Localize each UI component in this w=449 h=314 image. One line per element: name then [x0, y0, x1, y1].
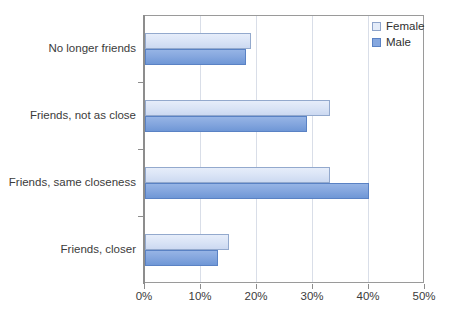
legend: Female Male: [372, 19, 424, 51]
category-label-text: Friends, closer: [61, 243, 136, 255]
x-axis-label-0: 0%: [122, 290, 166, 302]
bar-female-friends-closer[interactable]: [145, 234, 229, 250]
legend-swatch-female-icon: [372, 22, 381, 31]
category-label-text: Friends, not as close: [30, 109, 136, 121]
x-axis-tick: [256, 284, 257, 289]
category-label-friends-same-closeness: Friends, same closeness: [0, 176, 136, 188]
bar-male-no-longer-friends[interactable]: [145, 49, 246, 65]
bar-group-friends-same-closeness: [145, 150, 423, 217]
legend-item-male[interactable]: Male: [372, 35, 424, 49]
x-axis-tick: [424, 284, 425, 289]
x-axis-label-10: 10%: [178, 290, 222, 302]
x-axis-label-30: 30%: [290, 290, 334, 302]
category-label-friends-closer: Friends, closer: [0, 243, 136, 255]
legend-label-male: Male: [386, 35, 411, 49]
bar-male-friends-not-as-close[interactable]: [145, 116, 307, 132]
x-axis-label-50: 50%: [402, 290, 446, 302]
x-axis-tick: [200, 284, 201, 289]
x-axis-tick: [144, 284, 145, 289]
bar-female-no-longer-friends[interactable]: [145, 33, 251, 49]
y-axis-tick: [138, 216, 144, 217]
x-axis-tick: [368, 284, 369, 289]
y-axis-tick: [138, 82, 144, 83]
bar-female-friends-not-as-close[interactable]: [145, 100, 330, 116]
category-label-friends-not-as-close: Friends, not as close: [0, 109, 136, 121]
bar-male-friends-same-closeness[interactable]: [145, 183, 369, 199]
y-axis-tick: [138, 149, 144, 150]
legend-swatch-male-icon: [372, 38, 381, 47]
category-label-text: Friends, same closeness: [9, 176, 136, 188]
legend-label-female: Female: [386, 19, 424, 33]
bar-chart: No longer friends Friends, not as close …: [0, 0, 449, 314]
bar-female-friends-same-closeness[interactable]: [145, 167, 330, 183]
x-axis-tick: [312, 284, 313, 289]
bar-group-friends-not-as-close: [145, 83, 423, 150]
x-axis-label-40: 40%: [346, 290, 390, 302]
plot-area: [144, 15, 424, 283]
legend-item-female[interactable]: Female: [372, 19, 424, 33]
bar-male-friends-closer[interactable]: [145, 250, 218, 266]
category-label-no-longer-friends: No longer friends: [0, 42, 136, 54]
x-axis-label-20: 20%: [234, 290, 278, 302]
bar-group-friends-closer: [145, 217, 423, 284]
category-label-text: No longer friends: [48, 42, 136, 54]
